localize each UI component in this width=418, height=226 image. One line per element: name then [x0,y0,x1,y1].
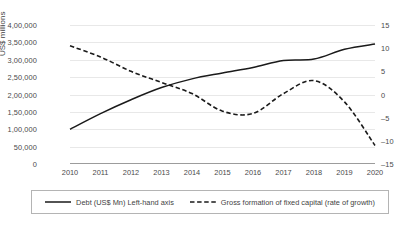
secondary-y-axis-tick-label: –10 [381,136,394,145]
legend-label: Debt (US$ Mn) Left-hand axis [76,198,174,207]
legend-dashed-line-icon [190,199,216,205]
y-axis-tick-label: 3,50,000 [7,38,37,47]
x-axis-tick-label: 2011 [93,168,109,177]
chart-container: US$ millions 050,0001,00,0001,50,0002,00… [0,0,418,226]
secondary-y-axis-tick-label: 5 [381,67,385,76]
y-axis-tick-label: 4,00,000 [7,21,37,30]
x-axis-tick-label: 2019 [336,168,352,177]
y-axis-tick-label: 50,000 [14,142,37,151]
secondary-y-axis-tick-label: 10 [381,44,389,53]
y-axis-tick-label: 1,50,000 [7,107,37,116]
y-axis-tick-label: 2,50,000 [7,73,37,82]
legend-label: Gross formation of fixed capital (rate o… [221,198,375,207]
legend-entry[interactable]: Debt (US$ Mn) Left-hand axis [45,198,174,207]
y-axis-title: US$ millions [0,12,7,56]
series-line [70,44,375,129]
x-axis-tick-label: 2015 [214,168,230,177]
secondary-y-axis-tick-label: 15 [381,21,389,30]
secondary-y-axis-tick-label: –5 [381,113,389,122]
chart-legend: Debt (US$ Mn) Left-hand axisGross format… [31,190,389,214]
y-axis-tick-label: 2,00,000 [7,90,37,99]
x-axis-tick-label: 2012 [123,168,139,177]
x-axis-tick-label: 2017 [275,168,291,177]
y-axis-tick-label: 0 [33,160,37,169]
x-axis-tick-label: 2020 [367,168,383,177]
legend-entry[interactable]: Gross formation of fixed capital (rate o… [190,198,375,207]
x-axis-tick-label: 2013 [153,168,169,177]
y-axis-tick-label: 3,00,000 [7,55,37,64]
x-axis-tick-label: 2016 [245,168,261,177]
x-axis-tick-label: 2014 [184,168,200,177]
secondary-y-axis-tick-label: 0 [381,90,385,99]
x-axis-tick-label: 2018 [306,168,322,177]
series-layer [70,25,375,164]
series-line [70,46,375,146]
y-axis-tick-label: 1,00,000 [7,125,37,134]
x-axis-tick-label: 2010 [62,168,78,177]
legend-solid-line-icon [45,199,71,205]
